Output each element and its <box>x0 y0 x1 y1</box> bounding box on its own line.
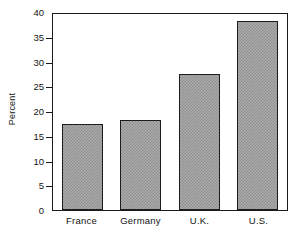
y-tick-label: 25 <box>18 83 44 93</box>
x-tick-label-france: France <box>52 215 111 235</box>
bar-slot <box>112 14 171 210</box>
y-tick-label: 10 <box>18 157 44 167</box>
x-tick-label-germany: Germany <box>111 215 170 235</box>
bar-slot <box>229 14 288 210</box>
y-axis-label: Percent <box>7 79 17 139</box>
plot-area <box>52 13 288 211</box>
y-tick-label: 0 <box>18 206 44 216</box>
y-axis-tick-labels: 40 35 30 25 20 15 10 5 0 <box>18 0 44 240</box>
bar-us <box>237 21 278 210</box>
bar-france <box>62 124 103 210</box>
x-tick-label-us: U.S. <box>229 215 288 235</box>
y-tick-label: 5 <box>18 182 44 192</box>
bar-slot <box>170 14 229 210</box>
bar-chart: Percent 40 35 30 25 20 15 10 5 0 <box>0 0 303 240</box>
y-tick-label: 20 <box>18 107 44 117</box>
bar-slot <box>53 14 112 210</box>
y-tick-label: 30 <box>18 58 44 68</box>
x-axis-tick-labels: France Germany U.K. U.S. <box>52 215 288 235</box>
y-tick-label: 35 <box>18 33 44 43</box>
x-tick-label-uk: U.K. <box>170 215 229 235</box>
bar-uk <box>179 74 220 210</box>
bar-germany <box>120 120 161 210</box>
y-tick-label: 40 <box>18 8 44 18</box>
y-tick-label: 15 <box>18 132 44 142</box>
bars-container <box>53 14 287 210</box>
